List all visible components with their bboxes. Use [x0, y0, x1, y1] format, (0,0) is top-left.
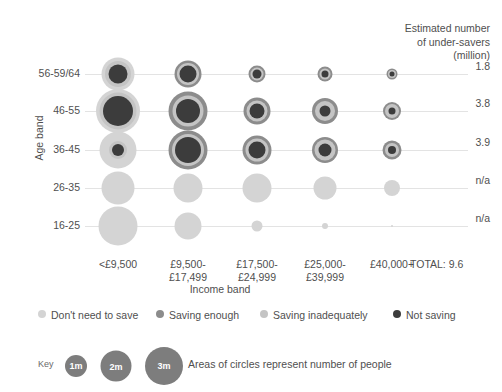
bubble-r0-c0-layer2	[109, 65, 128, 84]
key-note: Areas of circles represent number of peo…	[188, 358, 392, 370]
bubble-r3-c2-layer0	[243, 174, 272, 203]
bubble-r4-c4-layer0	[391, 225, 393, 227]
bubble-r0-c3-layer2	[322, 71, 329, 78]
legend-label-3: Not saving	[406, 309, 456, 321]
bubble-r4-c1-layer0	[175, 213, 202, 240]
bubble-r0-c4-layer2	[390, 72, 395, 77]
bubble-r3-c0-layer0	[102, 172, 135, 205]
row-value-2: 3.9	[430, 136, 490, 148]
header-note: Estimated number of under-savers (millio…	[360, 22, 490, 63]
bubble-r1-c2-layer2	[250, 104, 265, 119]
y-tick-1: 46-55	[18, 104, 80, 116]
y-tick-0: 56-59/64	[18, 67, 80, 79]
legend-item-2[interactable]: Saving inadequately	[260, 308, 368, 321]
legend-item-3[interactable]: Not saving	[393, 308, 456, 321]
bubble-r2-c0-layer2	[112, 144, 124, 156]
row-value-3: n/a	[430, 174, 490, 186]
y-tick-2: 36-45	[18, 143, 80, 155]
size-key: Key 1m2m3m Areas of circles represent nu…	[38, 346, 468, 386]
bubble-r2-c1-layer2	[175, 137, 201, 163]
total-label: TOTAL: 9.6	[410, 258, 500, 270]
gridline-row-4	[85, 226, 468, 227]
y-tick-4: 16-25	[18, 219, 80, 231]
y-tick-3: 26-35	[18, 181, 80, 193]
row-value-1: 3.8	[430, 97, 490, 109]
legend-item-0[interactable]: Don't need to save	[38, 308, 138, 321]
header-note-line1: Estimated number	[360, 22, 490, 36]
key-circle-2m: 2m	[101, 351, 132, 382]
bubble-r3-c3-layer0	[314, 177, 337, 200]
legend: Don't need to saveSaving enoughSaving in…	[38, 308, 478, 326]
bubble-r2-c3-layer2	[319, 144, 332, 157]
x-tick-3-line2: £39,999	[284, 271, 366, 284]
bubble-r0-c2-layer2	[253, 70, 262, 79]
legend-swatch-icon-2	[260, 310, 268, 318]
legend-swatch-icon-3	[393, 310, 401, 318]
bubble-r2-c4-layer2	[388, 146, 396, 154]
legend-swatch-icon-1	[156, 310, 164, 318]
row-value-4: n/a	[430, 212, 490, 224]
legend-item-1[interactable]: Saving enough	[156, 308, 239, 321]
bubble-r3-c1-layer0	[174, 174, 203, 203]
gridline-row-2	[85, 150, 468, 151]
bubble-r1-c1-layer2	[176, 99, 200, 123]
bubble-chart: Estimated number of under-savers (millio…	[0, 0, 502, 392]
gridline-row-1	[85, 111, 468, 112]
legend-swatch-icon-0	[38, 310, 46, 318]
legend-label-1: Saving enough	[169, 309, 239, 321]
legend-label-2: Saving inadequately	[273, 309, 368, 321]
bubble-r2-c2-layer2	[249, 142, 266, 159]
key-word: Key	[38, 359, 54, 369]
bubble-r1-c0-layer2	[103, 96, 133, 126]
bubble-r4-c3-layer0	[322, 223, 328, 229]
legend-label-0: Don't need to save	[51, 309, 138, 321]
plot-area	[85, 58, 468, 248]
key-circle-3m: 3m	[145, 347, 183, 385]
bubble-r0-c1-layer2	[180, 66, 197, 83]
row-value-0: 1.8	[430, 60, 490, 72]
bubble-r1-c4-layer2	[389, 108, 396, 115]
x-axis-title: Income band	[150, 283, 290, 295]
header-note-line2: of under-savers	[360, 36, 490, 50]
bubble-r4-c0-layer0	[99, 207, 138, 246]
gridline-row-0	[85, 74, 468, 75]
gridline-row-3	[85, 188, 468, 189]
key-circle-1m: 1m	[65, 355, 87, 377]
bubble-r3-c4-layer0	[384, 180, 400, 196]
bubble-r1-c3-layer2	[320, 106, 331, 117]
bubble-r4-c2-layer0	[252, 221, 263, 232]
